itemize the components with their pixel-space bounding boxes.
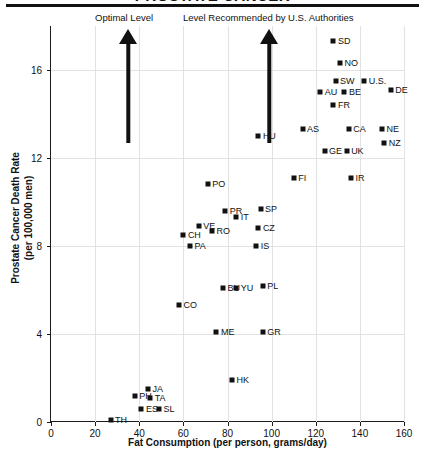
data-point-label: BE — [349, 88, 361, 97]
x-gridline — [360, 26, 361, 422]
annotation-arrow-optimal — [118, 29, 138, 143]
data-point-label: AU — [325, 88, 338, 97]
y-gridline — [51, 70, 404, 71]
data-point — [205, 182, 210, 187]
data-point-label: IS — [261, 242, 270, 251]
data-point — [223, 208, 228, 213]
data-point — [176, 303, 181, 308]
arrow-shaft — [268, 42, 271, 143]
data-point — [214, 329, 219, 334]
y-axis-title: Prostate Cancer Death Rate(per 100,000 m… — [9, 98, 35, 338]
x-axis-tick — [228, 422, 229, 426]
y-axis-tick-label: 4 — [36, 329, 42, 340]
data-point-label: SP — [265, 204, 277, 213]
data-point — [181, 233, 186, 238]
data-point-label: SW — [340, 77, 355, 86]
annotation-arrow-us-recommended — [259, 29, 279, 143]
data-point — [221, 285, 226, 290]
y-axis-line — [50, 26, 51, 422]
data-point — [260, 283, 265, 288]
data-point-label: FR — [338, 101, 350, 110]
data-point-label: TH — [115, 415, 127, 424]
x-axis-title: Fat Consumption (per person, grams/day) — [51, 437, 404, 448]
data-point — [342, 90, 347, 95]
data-point — [157, 406, 162, 411]
data-point-label: IT — [241, 213, 249, 222]
y-axis-tick — [47, 70, 51, 71]
data-point-label: NO — [345, 59, 359, 68]
annotation-us-recommended-level: Level Recommended by U.S. Authorities — [183, 12, 354, 23]
data-point — [229, 378, 234, 383]
x-axis-tick — [360, 422, 361, 426]
data-point-label: CH — [188, 231, 201, 240]
data-point — [362, 79, 367, 84]
data-point — [388, 87, 393, 92]
plot-area: 0204060801001201401600481216SDNOSWU.S.DE… — [51, 26, 404, 422]
data-point — [331, 103, 336, 108]
y-axis-title-line-2: (per 100,000 men) — [22, 98, 35, 338]
figure-title: PROSTATE CANCER — [0, 0, 425, 3]
title-divider-rule — [6, 4, 419, 7]
data-point — [148, 395, 153, 400]
data-point — [196, 224, 201, 229]
data-point-label: CA — [353, 125, 366, 134]
y-axis-tick-label: 0 — [36, 417, 42, 428]
data-point — [234, 285, 239, 290]
data-point-label: ME — [221, 327, 235, 336]
x-axis-tick — [404, 422, 405, 426]
data-point-label: GE — [329, 147, 342, 156]
data-point — [333, 79, 338, 84]
data-point-label: SD — [338, 37, 351, 46]
x-gridline — [139, 26, 140, 422]
data-point — [187, 244, 192, 249]
y-axis-tick — [47, 246, 51, 247]
data-point — [318, 90, 323, 95]
x-axis-tick — [272, 422, 273, 426]
y-gridline — [51, 246, 404, 247]
x-axis-tick — [95, 422, 96, 426]
data-point-label: UK — [351, 147, 364, 156]
data-point-label: PO — [212, 180, 225, 189]
data-point — [210, 228, 215, 233]
x-gridline — [95, 26, 96, 422]
data-point-label: CZ — [263, 224, 275, 233]
data-point — [379, 127, 384, 132]
data-point-label: PA — [194, 242, 205, 251]
data-point-label: NE — [386, 125, 399, 134]
x-axis-tick — [316, 422, 317, 426]
arrow-shaft — [127, 42, 130, 143]
data-point-label: PL — [267, 281, 278, 290]
data-point-label: SL — [164, 404, 175, 413]
y-axis-tick-label: 16 — [31, 65, 42, 76]
data-point-label: GR — [267, 327, 281, 336]
data-point-label: U.S. — [369, 77, 387, 86]
y-gridline — [51, 158, 404, 159]
data-point — [132, 393, 137, 398]
data-point — [258, 206, 263, 211]
data-point-label: YU — [241, 283, 254, 292]
y-axis-title-line-1: Prostate Cancer Death Rate — [9, 98, 22, 338]
prostate-cancer-scatter-figure: PROSTATE CANCER Optimal Level Level Reco… — [0, 0, 425, 460]
data-point — [300, 127, 305, 132]
data-point — [338, 61, 343, 66]
x-axis-tick — [139, 422, 140, 426]
data-point-label: RO — [217, 226, 231, 235]
y-axis-tick — [47, 334, 51, 335]
data-point — [331, 39, 336, 44]
data-point — [322, 149, 327, 154]
data-point — [382, 140, 387, 145]
x-axis-tick — [183, 422, 184, 426]
y-axis-tick-label: 8 — [36, 241, 42, 252]
data-point — [139, 406, 144, 411]
y-axis-tick — [47, 158, 51, 159]
data-point — [349, 175, 354, 180]
data-point — [254, 244, 259, 249]
data-point-label: NZ — [389, 138, 401, 147]
x-gridline — [228, 26, 229, 422]
data-point-label: FI — [298, 173, 306, 182]
data-point-label: AS — [307, 125, 319, 134]
data-point — [291, 175, 296, 180]
data-point — [346, 127, 351, 132]
x-axis-tick — [51, 422, 52, 426]
data-point-label: HK — [236, 376, 249, 385]
